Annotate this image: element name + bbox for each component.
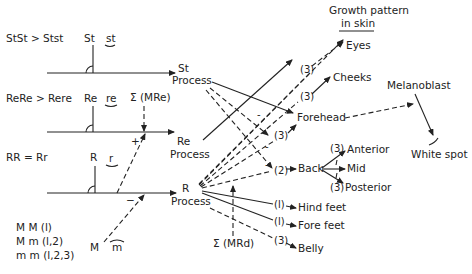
target-posterior: Posterior <box>345 181 392 193</box>
st-recessive-allele: st <box>106 32 116 44</box>
m-recessive-allele: m <box>112 241 122 253</box>
target-anterior: Anterior <box>347 143 390 155</box>
target-hind-feet: Hind feet <box>298 201 346 213</box>
eyes-weight-arrow <box>312 42 343 66</box>
re-plus-sign: + <box>131 135 140 147</box>
cheeks-weight-arrow <box>312 77 330 94</box>
anterior-tick <box>336 160 337 165</box>
minus-mark-1: - <box>257 109 261 120</box>
forehead-to-melanoblast-dashed <box>345 104 413 118</box>
growth-pattern-subheading: in skin <box>341 17 375 29</box>
st-dominance-label: StSt > Stst <box>6 32 63 44</box>
re-angle-icon <box>86 125 93 132</box>
st-dominant-allele: St <box>84 32 95 44</box>
r-minus-sign: − <box>126 194 135 206</box>
st-process-label: Process <box>172 74 212 86</box>
st-process-name: St <box>178 62 189 74</box>
target-cheeks: Cheeks <box>333 71 371 83</box>
r-process-name: R <box>182 182 189 194</box>
r-to-back-dashed <box>202 171 272 188</box>
r-to-belly-dashed <box>210 208 273 238</box>
r-dominant-allele: R <box>90 151 97 163</box>
re-process-name: Re <box>177 135 190 147</box>
st-angle-icon <box>86 66 93 73</box>
target-back: Back <box>298 162 324 174</box>
re-process-label: Process <box>170 148 210 160</box>
weight-fore-feet: (l) <box>274 216 285 227</box>
st-to-forehead-arrow <box>212 82 293 113</box>
weight-forehead: (3) <box>274 130 288 141</box>
fore-feet-weight-arrow <box>286 224 296 226</box>
re-modifier-label: Σ (MRe) <box>130 91 171 103</box>
m-genotype-1: M M (l) <box>16 221 52 233</box>
growth-pattern-heading: Growth pattern <box>329 4 409 16</box>
posterior-tick <box>336 173 337 178</box>
weight-hind-feet: (l) <box>274 199 285 210</box>
weight-cheeks: (3) <box>300 91 314 102</box>
r-recessive-mark <box>106 165 118 167</box>
re-dominance-label: ReRe > Rere <box>6 92 72 104</box>
melanoblast-to-white-spot-arrow <box>415 94 433 135</box>
re-dominant-allele: Re <box>84 92 97 104</box>
minus-mark-3: - <box>265 159 269 170</box>
r-to-forehead-dashed <box>201 141 274 187</box>
white-spot-label: White spot <box>411 148 468 160</box>
genetic-pathway-diagram: StSt > Stst St st St Process ReRe > Rere… <box>0 0 472 274</box>
re-recessive-mark <box>105 105 117 107</box>
m-genotype-3: m m (l,2,3) <box>16 249 74 261</box>
weight-posterior: (3) <box>330 182 344 193</box>
weight-back: (2) <box>274 165 288 176</box>
r-dominance-label: RR = Rr <box>6 151 48 163</box>
weight-belly: (3) <box>274 235 288 246</box>
target-mid: Mid <box>347 162 366 174</box>
white-spot-mark <box>429 138 438 145</box>
m-genotype-2: M m (l,2) <box>16 235 63 247</box>
m-dominant-allele: M <box>90 241 99 253</box>
melanoblast-label: Melanoblast <box>387 79 451 91</box>
m-dashed-arrow <box>104 195 144 242</box>
rd-modifier-label: Σ (MRd) <box>213 237 254 249</box>
re-recessive-allele: re <box>106 92 117 104</box>
forehead-weight-arrow <box>288 125 296 133</box>
r-angle-icon <box>88 186 95 193</box>
hind-feet-weight-arrow <box>286 206 296 208</box>
target-belly: Belly <box>298 242 324 254</box>
target-fore-feet: Fore feet <box>298 219 345 231</box>
st-recessive-mark <box>105 45 115 47</box>
re-to-eyes-arrow <box>203 60 292 140</box>
target-forehead: Forehead <box>297 111 346 123</box>
r-process-label: Process <box>171 195 211 207</box>
weight-anterior: (3) <box>330 143 344 154</box>
target-eyes: Eyes <box>346 39 371 51</box>
minus-mark-2: - <box>265 141 269 152</box>
r-recessive-allele: r <box>109 153 114 164</box>
